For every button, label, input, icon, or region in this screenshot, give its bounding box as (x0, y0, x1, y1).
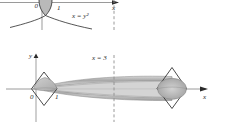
top-x-axis-label: x (111, 4, 116, 12)
bottom-x-axis-arrowhead (200, 87, 208, 92)
left-cap-shaded-region (34, 78, 58, 91)
bottom-y-axis-label: y (28, 52, 33, 60)
top-shaded-region (39, 0, 52, 16)
top-panel: 0 1 x = y² x (0, 0, 119, 30)
bottom-x-axis-label: x (202, 93, 207, 101)
bottom-panel: y x 0 1 x = 3 (6, 52, 208, 122)
top-tick-label-0: 0 (35, 2, 39, 10)
bottom-tick-label-1: 1 (55, 93, 59, 101)
bottom-plane-label: x = 3 (91, 54, 107, 62)
right-cap-disk (158, 78, 187, 99)
top-tick-label-1: 1 (57, 4, 61, 12)
bottom-tick-label-0: 0 (30, 93, 34, 101)
figure-svg: 0 1 x = y² x y x (0, 0, 225, 127)
top-branch-lower-left (10, 16, 46, 28)
top-curve-label: x = y² (71, 12, 89, 20)
bottom-y-axis-arrowhead (34, 54, 39, 59)
figure-container: 0 1 x = y² x y x (0, 0, 225, 127)
